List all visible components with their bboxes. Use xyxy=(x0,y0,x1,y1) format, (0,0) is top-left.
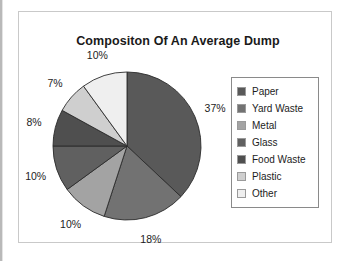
legend-swatch-icon xyxy=(237,172,246,181)
legend-item-other[interactable]: Other xyxy=(237,185,314,202)
pie-value-label-plastic: 7% xyxy=(47,77,62,89)
legend-item-label: Food Waste xyxy=(252,155,306,165)
legend-swatch-icon xyxy=(237,121,246,130)
legend-item-yard-waste[interactable]: Yard Waste xyxy=(237,100,314,117)
chart-legend: PaperYard WasteMetalGlassFood WastePlast… xyxy=(231,77,319,208)
pie-value-label-other: 10% xyxy=(87,49,108,61)
legend-item-label: Yard Waste xyxy=(252,104,303,114)
chart-title: Compositon Of An Average Dump xyxy=(19,34,331,48)
legend-item-label: Glass xyxy=(252,138,278,148)
legend-item-paper[interactable]: Paper xyxy=(237,83,314,100)
pie-value-label-paper: 37% xyxy=(205,102,226,114)
legend-item-food-waste[interactable]: Food Waste xyxy=(237,151,314,168)
pie-chart: 37%18%10%10%8%7%10% xyxy=(27,56,227,236)
pie-value-label-metal: 10% xyxy=(60,218,81,230)
pie-value-label-food-waste: 8% xyxy=(26,116,41,128)
legend-swatch-icon xyxy=(237,138,246,147)
page-left-edge-rule-light xyxy=(2,0,3,261)
chart-frame: Compositon Of An Average Dump 37%18%10%1… xyxy=(18,11,332,243)
legend-item-label: Other xyxy=(252,189,277,199)
legend-swatch-icon xyxy=(237,189,246,198)
pie-value-label-glass: 10% xyxy=(25,170,46,182)
legend-item-glass[interactable]: Glass xyxy=(237,134,314,151)
legend-item-metal[interactable]: Metal xyxy=(237,117,314,134)
legend-item-label: Paper xyxy=(252,87,279,97)
page-canvas: Compositon Of An Average Dump 37%18%10%1… xyxy=(0,0,351,261)
legend-item-plastic[interactable]: Plastic xyxy=(237,168,314,185)
legend-item-label: Plastic xyxy=(252,172,281,182)
pie-value-label-yard-waste: 18% xyxy=(140,233,161,245)
legend-swatch-icon xyxy=(237,104,246,113)
pie-slice-group xyxy=(53,72,201,220)
legend-rows: PaperYard WasteMetalGlassFood WastePlast… xyxy=(237,83,314,202)
legend-item-label: Metal xyxy=(252,121,276,131)
legend-swatch-icon xyxy=(237,155,246,164)
legend-swatch-icon xyxy=(237,87,246,96)
